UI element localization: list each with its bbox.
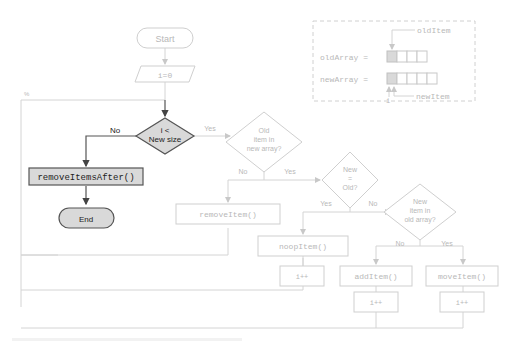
increment-add-node: i++ bbox=[354, 292, 398, 312]
legend-old-array-label: oldArray = bbox=[320, 53, 368, 62]
init-label: i=0 bbox=[158, 71, 173, 80]
no-new-eq-old: No bbox=[369, 200, 378, 207]
yes-old-in-new: Yes bbox=[284, 168, 296, 175]
yes-label-main: Yes bbox=[204, 125, 216, 132]
flowchart-diagram: % Start i=0 i < New size No Yes removeIt… bbox=[0, 0, 514, 342]
add-item-node: addItem() bbox=[340, 266, 412, 286]
legend-new-item-label: newItem bbox=[416, 92, 450, 101]
loop-mark: % bbox=[24, 91, 30, 97]
legend-new-array-cells bbox=[387, 73, 437, 84]
no-old-in-new: No bbox=[239, 168, 248, 175]
legend-old-array-cells bbox=[387, 51, 427, 62]
loop-condition-diamond: i < New size bbox=[136, 118, 194, 154]
remove-items-after-node: removeItemsAfter() bbox=[29, 168, 143, 185]
yes-new-in-old: Yes bbox=[441, 240, 453, 247]
old-in-new-diamond: Old item in new array? bbox=[226, 112, 302, 172]
connectors-active bbox=[86, 100, 165, 204]
old-in-new-line2: item in bbox=[254, 136, 275, 143]
increment-move-node: i++ bbox=[440, 292, 484, 312]
move-item-node: moveItem() bbox=[426, 266, 498, 286]
init-node: i=0 bbox=[135, 66, 195, 82]
new-in-old-line3: old array? bbox=[404, 216, 435, 224]
increment-add-label: i++ bbox=[370, 299, 383, 307]
loop-condition-line2: New size bbox=[149, 135, 182, 144]
legend-box: oldItem oldArray = newArray = i newItem bbox=[313, 21, 475, 105]
move-item-label: moveItem() bbox=[438, 272, 486, 281]
new-in-old-diamond: New item in old array? bbox=[384, 184, 456, 240]
yes-new-eq-old: Yes bbox=[320, 200, 332, 207]
remove-items-after-label: removeItemsAfter() bbox=[37, 173, 134, 183]
new-eq-old-line1: New bbox=[343, 166, 358, 173]
add-item-label: addItem() bbox=[354, 272, 397, 281]
new-eq-old-line2: = bbox=[348, 175, 352, 182]
new-in-old-line1: New bbox=[413, 198, 428, 205]
increment-move-label: i++ bbox=[456, 299, 469, 307]
noop-item-label: noopItem() bbox=[279, 242, 327, 251]
new-in-old-line2: item in bbox=[410, 207, 431, 214]
start-node: Start bbox=[137, 28, 193, 48]
end-label: End bbox=[79, 215, 93, 224]
legend-i-label: i bbox=[386, 97, 390, 105]
legend-new-array-label: newArray = bbox=[320, 75, 368, 84]
caption-faint bbox=[12, 338, 242, 341]
no-label-main: No bbox=[110, 126, 121, 135]
new-eq-old-line3: Old? bbox=[343, 184, 358, 191]
increment-noop-node: i++ bbox=[280, 266, 324, 286]
old-in-new-line1: Old bbox=[259, 127, 270, 134]
old-in-new-line3: new array? bbox=[247, 145, 282, 153]
remove-item-node: removeItem() bbox=[176, 204, 280, 224]
noop-item-node: noopItem() bbox=[258, 236, 348, 256]
legend-old-item-label: oldItem bbox=[417, 26, 451, 35]
start-label: Start bbox=[155, 34, 175, 44]
end-node: End bbox=[59, 208, 114, 228]
no-new-in-old: No bbox=[396, 240, 405, 247]
remove-item-label: removeItem() bbox=[199, 210, 257, 219]
increment-noop-label: i++ bbox=[296, 273, 309, 281]
loop-condition-line1: i < bbox=[161, 126, 170, 135]
